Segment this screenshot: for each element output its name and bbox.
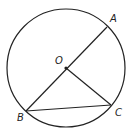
circle-diagram: A O B C <box>0 0 131 134</box>
label-b: B <box>17 112 24 123</box>
radius-oc <box>66 68 111 105</box>
label-c: C <box>115 107 122 118</box>
label-o: O <box>55 55 63 66</box>
chord-bc <box>26 105 111 111</box>
center-point <box>64 66 67 69</box>
label-a: A <box>109 13 117 24</box>
